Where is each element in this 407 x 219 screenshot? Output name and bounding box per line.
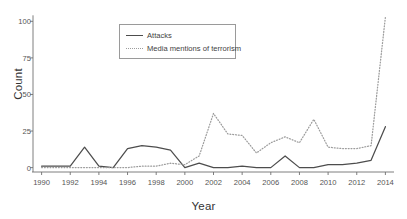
chart-figure: Count 0255075100 19901992199419961998200… xyxy=(0,0,407,219)
legend-line-swatch-icon xyxy=(125,44,144,54)
x-tick-label: 2014 xyxy=(368,178,402,187)
legend-item-label: Attacks xyxy=(147,31,172,41)
legend-item-1: Attacks xyxy=(125,29,230,42)
series-line-1 xyxy=(42,127,386,168)
legend-item-label: Media mentions of terrorism xyxy=(147,44,241,54)
x-axis-tick-labels: 1990199219941996199820002002200420062008… xyxy=(0,178,407,192)
x-axis-title: Year xyxy=(0,200,407,212)
legend-line-swatch-icon xyxy=(125,31,144,41)
chart-legend: AttacksMedia mentions of terrorism xyxy=(119,24,236,59)
legend-item-2: Media mentions of terrorism xyxy=(125,42,230,55)
